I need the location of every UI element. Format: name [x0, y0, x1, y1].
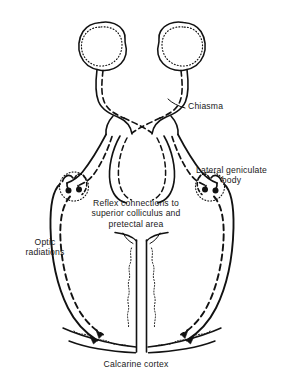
- label-lgb-line2: body: [196, 175, 267, 185]
- right-eye-globe: [158, 22, 206, 70]
- label-reflex-line3: pretectal area: [80, 219, 192, 229]
- visual-pathway-diagram: [0, 0, 284, 385]
- label-chiasma: Chiasma: [188, 101, 223, 111]
- label-reflex-connections: Reflex connections to superior colliculu…: [80, 198, 192, 229]
- left-optic-nerve: [96, 70, 124, 119]
- right-radiation-arrowhead-inner: [181, 330, 188, 339]
- label-reflex-line1: Reflex connections to: [80, 198, 192, 208]
- label-optic-radiations: Optic radiations: [12, 237, 78, 258]
- left-lateral-geniculate-body: [60, 172, 89, 201]
- label-optic-radiations-line2: radiations: [12, 247, 78, 257]
- label-calcarine-cortex: Calcarine cortex: [76, 359, 196, 369]
- label-lgb-line1: Lateral geniculate: [196, 165, 267, 175]
- label-lateral-geniculate-body: Lateral geniculate body: [196, 165, 267, 186]
- calcarine-fissure: [115, 233, 168, 353]
- left-radiation-arrowhead-inner: [96, 330, 103, 339]
- left-cortical-ribbon: [128, 248, 132, 327]
- optic-tracts: [67, 135, 217, 204]
- right-optic-nerve: [160, 70, 188, 119]
- right-cortical-ribbon: [152, 248, 156, 327]
- optic-chiasma: [106, 116, 178, 135]
- left-eye-globe: [79, 22, 127, 70]
- visual-pathway-figure: Chiasma Lateral geniculate body Reflex c…: [0, 0, 284, 385]
- label-optic-radiations-line1: Optic: [12, 237, 78, 247]
- label-reflex-line2: superior colliculus and: [80, 208, 192, 218]
